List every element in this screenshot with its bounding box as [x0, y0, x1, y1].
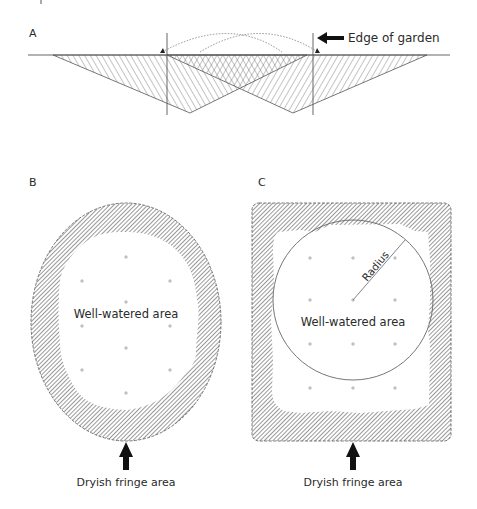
edge-arrow-icon	[317, 32, 344, 44]
well-watered-area	[59, 232, 199, 410]
well-watered-label-b: Well-watered area	[74, 307, 179, 321]
right-throw-arc	[200, 34, 318, 53]
left-throw-arc	[162, 34, 282, 53]
panel-a: A Edge of garden	[28, 27, 450, 115]
edge-of-garden-label: Edge of garden	[348, 31, 440, 45]
fringe-arrow-b-icon	[119, 442, 133, 470]
dryish-fringe-label-b: Dryish fringe area	[77, 476, 176, 489]
panel-c: C Radius Well-watered area Dryish fringe…	[252, 176, 451, 489]
panel-a-label: A	[29, 27, 37, 40]
well-watered-label-c: Well-watered area	[301, 315, 406, 329]
left-arc-arrowhead-icon	[160, 48, 165, 53]
panel-b: B Well-watered area Dryish fringe area	[29, 176, 221, 489]
dryish-fringe-label-c: Dryish fringe area	[304, 476, 403, 489]
panel-c-label: C	[258, 176, 266, 189]
fringe-arrow-c-icon	[346, 442, 360, 470]
right-arc-arrowhead-icon	[315, 48, 320, 53]
sprinkler-diagram: A Edge of garden B	[0, 0, 477, 509]
panel-b-label: B	[29, 176, 37, 189]
